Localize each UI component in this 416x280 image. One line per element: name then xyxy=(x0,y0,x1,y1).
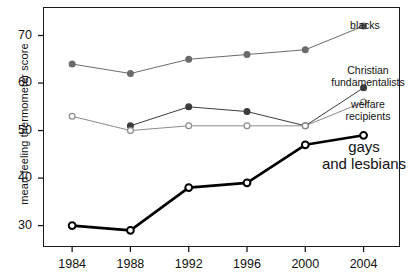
x-tick-label: 2000 xyxy=(282,257,328,271)
x-tick-label: 1988 xyxy=(107,257,153,271)
y-tick-label: 70 xyxy=(6,28,32,42)
series-label-christian-line2: fundamentalists xyxy=(331,76,405,88)
series-label-blacks: blacks xyxy=(330,19,400,31)
x-tick-label: 1996 xyxy=(224,257,270,271)
x-tick-label: 1984 xyxy=(49,257,95,271)
y-tick-label: 50 xyxy=(6,123,32,137)
plot-frame xyxy=(43,7,400,247)
series-label-gays-and-lesbians: gays and lesbians xyxy=(316,138,412,172)
series-label-welfare-line2: recipients xyxy=(346,110,391,122)
y-tick-label: 30 xyxy=(6,218,32,232)
y-tick-label: 60 xyxy=(6,75,32,89)
series-label-christian-line1: Christian xyxy=(347,64,388,76)
series-label-gays-line1: gays xyxy=(348,138,380,155)
series-label-blacks-text: blacks xyxy=(350,19,380,31)
x-tick-label: 2004 xyxy=(341,257,387,271)
series-label-gays-line2: and lesbians xyxy=(322,155,406,172)
chart-figure: mean feeling thermometer score 304050607… xyxy=(0,0,416,280)
series-label-christian-fundamentalists: Christian fundamentalists xyxy=(328,64,408,88)
series-label-welfare-recipients: welfare recipients xyxy=(333,98,403,122)
y-tick-label: 40 xyxy=(6,170,32,184)
series-label-welfare-line1: welfare xyxy=(351,98,385,110)
x-tick-label: 1992 xyxy=(166,257,212,271)
